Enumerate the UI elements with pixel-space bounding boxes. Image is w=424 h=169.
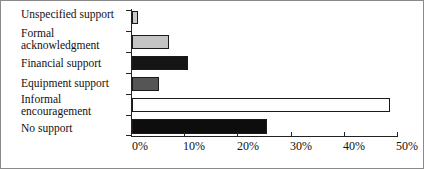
x-axis-tick-label-20: 20% bbox=[237, 140, 259, 153]
category-label-column: Unspecified support Formal acknowledgmen… bbox=[7, 1, 125, 136]
category-label-formal-acknowledgment: Formal acknowledgment bbox=[7, 28, 125, 51]
bar-chart-figure: Unspecified support Formal acknowledgmen… bbox=[0, 0, 424, 169]
bar-informal-encouragement bbox=[132, 98, 390, 112]
x-axis-tick-label-10: 10% bbox=[183, 140, 205, 153]
x-axis-tick bbox=[291, 132, 292, 137]
x-axis-tick-label-30: 30% bbox=[290, 140, 312, 153]
bar-equipment-support bbox=[132, 77, 159, 91]
x-axis-tick bbox=[237, 132, 238, 137]
x-axis-tick bbox=[131, 132, 132, 137]
y-axis-tick bbox=[126, 94, 132, 95]
x-axis-tick bbox=[344, 132, 345, 137]
x-axis-tick-label-40: 40% bbox=[343, 140, 365, 153]
category-label-equipment-support: Equipment support bbox=[7, 78, 125, 90]
y-axis-tick bbox=[126, 73, 132, 74]
x-axis-tick bbox=[184, 132, 185, 137]
y-axis-tick bbox=[126, 52, 132, 53]
bar-no-support bbox=[132, 119, 267, 134]
category-label-financial-support: Financial support bbox=[7, 58, 125, 70]
bar-formal-acknowledgment bbox=[132, 35, 169, 49]
y-axis-tick bbox=[126, 115, 132, 116]
plot-area: Unspecified support Formal acknowledgmen… bbox=[1, 1, 424, 169]
category-label-informal-encouragement: Informal encouragement bbox=[7, 94, 125, 117]
bar-financial-support bbox=[132, 56, 188, 70]
y-axis-tick bbox=[126, 31, 132, 32]
bar-unspecified-support bbox=[132, 11, 138, 24]
x-axis-tick-label-50: 50% bbox=[396, 140, 418, 153]
x-axis-line bbox=[131, 136, 397, 137]
category-label-no-support: No support bbox=[7, 123, 125, 135]
x-axis-tick bbox=[397, 132, 398, 137]
category-label-unspecified-support: Unspecified support bbox=[7, 9, 125, 21]
x-axis-tick-label-0: 0% bbox=[132, 140, 148, 153]
